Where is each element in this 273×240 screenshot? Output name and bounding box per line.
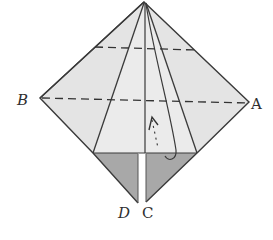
label-b: B xyxy=(16,91,28,109)
label-a: A xyxy=(250,95,262,113)
label-c: C xyxy=(142,204,153,222)
label-d: D xyxy=(117,204,130,222)
center-gap-strip xyxy=(138,154,146,203)
origami-diagram: B A D C xyxy=(0,0,273,240)
